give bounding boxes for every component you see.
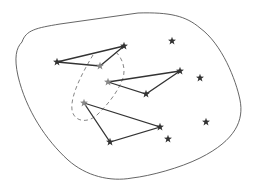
star-icon [142,90,150,98]
dashed-loop [72,52,124,120]
star-icon [156,123,164,131]
highlighted-star-icon [104,78,112,86]
star-icon [53,58,61,66]
star-icon [202,118,210,126]
triangle-2 [108,71,180,94]
diagram-canvas [0,0,268,189]
triangle-1 [57,46,124,66]
stars [53,37,210,146]
highlighted-star-icon [80,99,88,107]
star-icon [168,37,176,45]
star-icon [164,135,172,143]
region-outline [16,13,241,179]
star-icon [196,74,204,82]
triangle-3 [84,103,160,142]
